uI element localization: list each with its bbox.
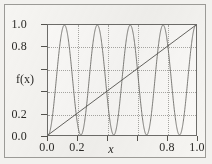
identity-line xyxy=(48,25,196,135)
y-axis-label: f(x) xyxy=(16,73,34,85)
x-axis-tick xyxy=(137,136,138,141)
y-axis-tick-label: 0.8 xyxy=(0,40,27,52)
y-axis-tick-label: 1.0 xyxy=(0,18,27,30)
y-axis-tick xyxy=(41,69,47,70)
x-axis-label: x xyxy=(101,143,121,155)
x-axis-tick-label: 1.0 xyxy=(177,141,212,153)
y-axis-tick xyxy=(41,46,47,47)
y-axis-tick xyxy=(41,24,47,25)
x-axis-tick-label: 0.2 xyxy=(57,141,97,153)
figure-frame: 1.00.80.20.00.00.20.81.0 f(x) x xyxy=(4,4,206,158)
y-axis-tick-label: 0.2 xyxy=(0,108,27,120)
y-axis-tick xyxy=(41,91,47,92)
y-axis-tick xyxy=(41,114,47,115)
figure-root: 1.00.80.20.00.00.20.81.0 f(x) x xyxy=(0,0,212,164)
plot-panel xyxy=(47,24,197,136)
y-axis-tick-label: 0.0 xyxy=(0,130,27,142)
x-axis-tick xyxy=(107,136,108,141)
